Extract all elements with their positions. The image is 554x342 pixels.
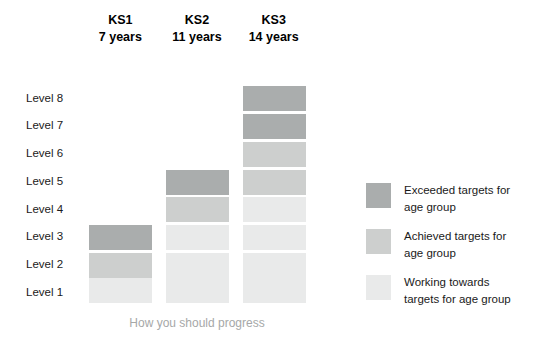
level-label-4: Level 4 [26, 196, 84, 221]
column-header-ks2: KS2 11 years [166, 12, 229, 46]
bar-segment-ks2-level-3 [166, 225, 229, 250]
chart-caption: How you should progress [89, 316, 305, 330]
level-label-3: Level 3 [26, 224, 84, 249]
bar-segment-ks3-level-2 [243, 253, 306, 278]
level-label-5: Level 5 [26, 168, 84, 193]
legend-swatch-exceeded [366, 183, 391, 208]
legend-label-achieved-line2: age group [404, 247, 456, 259]
bar-segment-ks3-level-6 [243, 142, 306, 167]
legend-label-working-line1: Working towards [404, 276, 489, 288]
level-label-1: Level 1 [26, 280, 84, 305]
column-headers: KS1 7 years KS2 11 years KS3 14 years [89, 12, 305, 46]
legend-label-achieved: Achieved targets for age group [404, 228, 506, 261]
bar-segment-ks3-level-4 [243, 197, 306, 222]
column-header-ks2-age: 11 years [166, 29, 229, 46]
level-label-8: Level 8 [26, 85, 84, 110]
bar-segment-ks2-level-2 [166, 253, 229, 278]
column-header-ks3-stage: KS3 [242, 12, 305, 29]
bar-segment-ks3-level-3 [243, 225, 306, 250]
level-axis-labels: Level 8 Level 7 Level 6 Level 5 Level 4 … [26, 85, 84, 307]
chart-legend: Exceeded targets for age group Achieved … [366, 182, 551, 320]
column-header-ks3: KS3 14 years [242, 12, 305, 46]
bar-segment-ks1-level-3 [89, 225, 152, 250]
bar-segment-ks1-level-2 [89, 253, 152, 278]
level-label-7: Level 7 [26, 113, 84, 138]
legend-label-working: Working towards targets for age group [404, 274, 511, 307]
legend-item-working: Working towards targets for age group [366, 274, 551, 307]
bar-segment-ks2-level-5 [166, 170, 229, 195]
legend-label-exceeded-line1: Exceeded targets for [404, 184, 510, 196]
column-header-ks1-stage: KS1 [89, 12, 152, 29]
legend-swatch-achieved [366, 229, 391, 254]
legend-label-exceeded: Exceeded targets for age group [404, 182, 510, 215]
chart-plot-area [89, 85, 305, 303]
bar-stack-ks2 [166, 167, 229, 303]
bar-segment-ks3-level-7 [243, 114, 306, 139]
bar-segment-ks2-level-1 [166, 278, 229, 303]
legend-item-exceeded: Exceeded targets for age group [366, 182, 551, 215]
level-label-6: Level 6 [26, 141, 84, 166]
legend-label-exceeded-line2: age group [404, 201, 456, 213]
bar-segment-ks3-level-8 [243, 86, 306, 111]
legend-swatch-working [366, 275, 391, 300]
column-header-ks1-age: 7 years [89, 29, 152, 46]
column-header-ks1: KS1 7 years [89, 12, 152, 46]
legend-item-achieved: Achieved targets for age group [366, 228, 551, 261]
bar-stack-ks1 [89, 222, 152, 303]
level-label-2: Level 2 [26, 252, 84, 277]
column-header-ks2-stage: KS2 [166, 12, 229, 29]
column-header-ks3-age: 14 years [242, 29, 305, 46]
bar-stack-ks3 [243, 83, 306, 303]
bar-segment-ks3-level-5 [243, 170, 306, 195]
bar-segment-ks2-level-4 [166, 197, 229, 222]
bar-segment-ks1-level-1 [89, 278, 152, 303]
legend-label-working-line2: targets for age group [404, 293, 511, 305]
bar-segment-ks3-level-1 [243, 278, 306, 303]
legend-label-achieved-line1: Achieved targets for [404, 230, 506, 242]
